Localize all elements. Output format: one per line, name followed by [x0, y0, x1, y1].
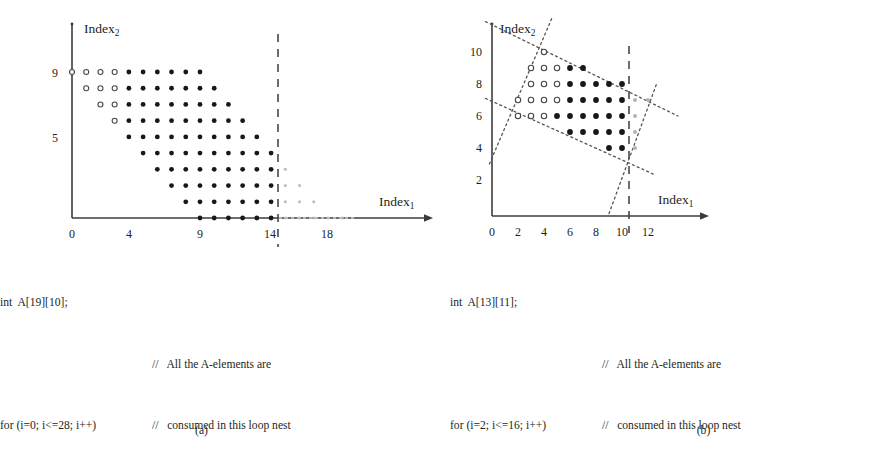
dot-hollow	[98, 102, 103, 107]
dot-faded	[633, 98, 637, 102]
dot-faded	[633, 130, 637, 134]
dot-filled	[212, 216, 217, 221]
dot-faded	[284, 168, 287, 171]
dot-filled	[269, 183, 274, 188]
code-segment: // All the A-elements are	[152, 355, 271, 376]
y-axis-label-b: Index2	[500, 21, 536, 38]
dot-filled	[155, 86, 160, 91]
dot-filled	[240, 199, 245, 204]
y-axis-label-a: Index2	[84, 21, 120, 38]
dot-filled	[567, 97, 573, 103]
code-segment: int A[13][11];	[450, 293, 517, 314]
dot-filled	[254, 167, 259, 172]
dot-filled	[619, 113, 625, 119]
dot-filled	[240, 151, 245, 156]
dot-filled	[606, 81, 612, 87]
dot-faded	[312, 217, 315, 220]
dot-hollow	[554, 65, 559, 70]
dot-hollow	[541, 113, 546, 118]
dot-hollow	[541, 81, 546, 86]
dot-filled	[593, 113, 599, 119]
dot-filled	[198, 216, 203, 221]
dot-filled	[226, 151, 231, 156]
dot-filled	[240, 118, 245, 123]
x-axis-label-a: Index1	[379, 194, 415, 211]
dot-hollow	[112, 86, 117, 91]
dot-filled	[580, 65, 586, 71]
dot-filled	[141, 135, 146, 140]
dot-filled	[198, 70, 203, 75]
dot-filled	[240, 135, 245, 140]
dot-filled	[619, 97, 625, 103]
x-tick-label: 8	[593, 225, 599, 239]
dot-filled	[141, 102, 146, 107]
figure-root: Index2 Index1 9 5 0 4 9 14 18	[0, 0, 885, 456]
dot-hollow	[541, 65, 546, 70]
x-tick-label: 18	[321, 227, 333, 241]
panel-caption-a: (a)	[0, 424, 423, 437]
y-tick-label: 8	[476, 77, 482, 91]
dot-filled	[126, 135, 131, 140]
dot-filled	[226, 102, 231, 107]
dot-filled	[141, 151, 146, 156]
dot-hollow	[112, 118, 117, 123]
x-axis-arrow-b	[700, 212, 709, 220]
dot-filled	[183, 199, 188, 204]
panel-caption-b: (b)	[482, 424, 885, 437]
dot-filled	[226, 118, 231, 123]
dot-filled	[212, 199, 217, 204]
dot-filled	[198, 151, 203, 156]
dot-filled	[212, 102, 217, 107]
dot-faded	[633, 146, 637, 150]
x-tick-label: 14	[264, 227, 276, 241]
dot-hollow	[515, 97, 520, 102]
dot-grid-a	[70, 70, 344, 221]
dot-filled	[254, 151, 259, 156]
dot-filled	[183, 118, 188, 123]
dot-faded	[284, 217, 287, 220]
dot-filled	[155, 70, 160, 75]
dot-filled	[567, 81, 573, 87]
y-axis-cap-a	[71, 23, 74, 26]
dot-filled	[269, 199, 274, 204]
dot-filled	[226, 199, 231, 204]
x-axis-arrow-a	[424, 214, 433, 222]
dot-faded	[326, 217, 329, 220]
dot-filled	[269, 216, 274, 221]
dot-filled	[619, 129, 625, 135]
x-tick-label: 4	[126, 227, 132, 241]
dot-filled	[169, 86, 174, 91]
dot-filled	[169, 183, 174, 188]
dot-filled	[126, 118, 131, 123]
dot-filled	[169, 135, 174, 140]
dot-filled	[169, 167, 174, 172]
y-tick-label: 4	[476, 141, 482, 155]
dot-filled	[619, 145, 625, 151]
dot-filled	[606, 113, 612, 119]
dot-filled	[141, 118, 146, 123]
dot-filled	[212, 151, 217, 156]
dot-filled	[226, 135, 231, 140]
dot-hollow	[554, 97, 559, 102]
dot-filled	[619, 81, 625, 87]
dot-hollow	[112, 102, 117, 107]
dot-filled	[593, 97, 599, 103]
dot-filled	[155, 135, 160, 140]
dot-hollow	[528, 65, 533, 70]
x-tick-label: 6	[567, 225, 573, 239]
dot-hollow	[541, 97, 546, 102]
dot-faded	[298, 200, 301, 203]
dot-faded	[341, 217, 344, 220]
dot-filled	[141, 70, 146, 75]
dot-filled	[126, 70, 131, 75]
dot-hollow	[98, 86, 103, 91]
dot-filled	[212, 183, 217, 188]
dot-filled	[155, 167, 160, 172]
dot-faded	[284, 200, 287, 203]
dot-filled	[141, 86, 146, 91]
dot-hollow	[112, 70, 117, 75]
dot-filled	[155, 151, 160, 156]
dot-filled	[240, 183, 245, 188]
dot-filled	[183, 135, 188, 140]
dot-filled	[183, 167, 188, 172]
